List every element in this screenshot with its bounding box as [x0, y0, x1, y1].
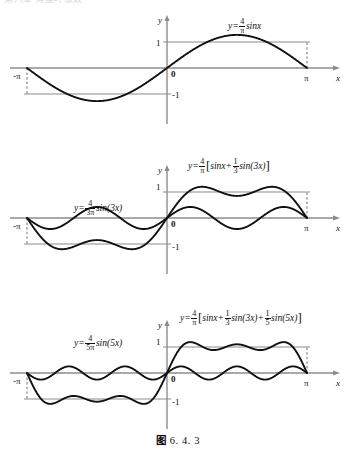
panel-2-ytick-minus1: -1	[172, 243, 180, 252]
panel-3-label-f3-den: 5	[265, 318, 271, 327]
panel-3-label-term3: sin(5x)	[271, 313, 297, 323]
panel-3-xtick-minus-pi: -π	[13, 377, 21, 386]
panel-3-label-coef-num: 4	[191, 310, 197, 318]
panel-2-origin-label: 0	[171, 220, 176, 229]
panel-2-comp-coef-den: 3π	[85, 208, 95, 217]
panel-3-comp-coefficient: 45π	[85, 335, 95, 352]
panel-3-y-axis-label: y	[158, 321, 162, 330]
panel-1-plot	[0, 0, 356, 130]
panel-3: y x 0 1 -1 -π π y=4π[sinx+13sin(3x)+15si…	[0, 305, 356, 435]
panel-3-label-f2-num: 1	[225, 310, 231, 318]
panel-3-label-coef-den: π	[191, 318, 197, 327]
panel-2-label-fraction-2: 13	[233, 158, 239, 175]
panel-2-label-close-bracket: ]	[266, 158, 270, 173]
panel-2-y-axis-label: y	[158, 166, 162, 175]
figure-caption-number: 6. 4. 3	[170, 435, 200, 446]
panel-1-x-axis-label: x	[336, 74, 340, 83]
panel-3-comp-coef-num: 4	[85, 335, 95, 343]
panel-2: y x 0 1 -1 -π π y=4π[sinx+13sin(3x)] y=4…	[0, 150, 356, 280]
panel-1-sum-curve-label: y=4πsinx	[228, 18, 261, 35]
panel-3-comp-coef-den: 5π	[85, 343, 95, 352]
panel-1-label-coef-den: π	[239, 26, 245, 35]
panel-3-ytick-1: 1	[156, 338, 161, 347]
panel-2-comp-body: sin(3x)	[96, 203, 122, 213]
panel-3-label-f3-num: 1	[265, 310, 271, 318]
figure-caption-prefix: 图	[156, 435, 167, 446]
panel-3-origin-label: 0	[171, 375, 176, 384]
panel-1-label-body: sinx	[246, 21, 261, 31]
panel-2-ytick-1: 1	[156, 183, 161, 192]
panel-3-comp-body: sin(5x)	[96, 338, 122, 348]
panel-1-ytick-1: 1	[156, 39, 161, 48]
panel-3-label-fraction-3: 15	[265, 310, 271, 327]
panel-1-label-lhs: y=	[228, 21, 239, 31]
panel-3-component-curve-label: y=45πsin(5x)	[74, 335, 122, 352]
panel-2-plot	[0, 150, 356, 280]
panel-3-label-term1: sinx+	[202, 313, 224, 323]
figure-container: 第六章 傅里叶级数 y x 0 1 -1 -π π y=4πsinx y x 0…	[0, 0, 356, 462]
panel-3-comp-lhs: y=	[74, 338, 85, 348]
panel-2-x-axis-label: x	[336, 224, 340, 233]
panel-2-label-coefficient: 4π	[199, 158, 205, 175]
panel-3-label-open-bracket: [	[198, 310, 202, 325]
panel-2-label-term1: sinx+	[210, 161, 232, 171]
panel-3-label-coefficient: 4π	[191, 310, 197, 327]
panel-1-xtick-minus-pi: -π	[13, 72, 21, 81]
panel-2-label-f2-num: 1	[233, 158, 239, 166]
panel-3-label-lhs: y=	[180, 313, 191, 323]
panel-1: y x 0 1 -1 -π π y=4πsinx	[0, 0, 356, 130]
panel-3-xtick-pi: π	[304, 379, 309, 388]
panel-3-label-close-bracket: ]	[298, 310, 302, 325]
panel-1-xtick-pi: π	[304, 74, 309, 83]
panel-1-y-axis-label: y	[158, 16, 162, 25]
panel-2-component-curve-label: y=43πsin(3x)	[74, 200, 122, 217]
panel-2-comp-lhs: y=	[74, 203, 85, 213]
panel-2-xtick-minus-pi: -π	[13, 222, 21, 231]
panel-2-label-lhs: y=	[188, 161, 199, 171]
panel-2-label-open-bracket: [	[206, 158, 210, 173]
panel-1-label-coefficient: 4π	[239, 18, 245, 35]
panel-1-ytick-minus1: -1	[172, 91, 180, 100]
panel-2-xtick-pi: π	[304, 224, 309, 233]
panel-3-label-f2-den: 3	[225, 318, 231, 327]
panel-1-label-coef-num: 4	[239, 18, 245, 26]
panel-3-label-fraction-2: 13	[225, 310, 231, 327]
panel-3-sum-curve-label: y=4π[sinx+13sin(3x)+15sin(5x)]	[180, 310, 302, 327]
panel-3-ytick-minus1: -1	[172, 398, 180, 407]
panel-3-x-axis-label: x	[336, 379, 340, 388]
panel-2-label-coef-den: π	[199, 166, 205, 175]
panel-2-label-coef-num: 4	[199, 158, 205, 166]
panel-3-label-term2: sin(3x)+	[231, 313, 264, 323]
panel-2-comp-coef-num: 4	[85, 200, 95, 208]
figure-caption: 图 6. 4. 3	[0, 432, 356, 447]
panel-3-plot	[0, 305, 356, 435]
panel-2-sum-curve-label: y=4π[sinx+13sin(3x)]	[188, 158, 270, 175]
panel-2-label-term2: sin(3x)	[239, 161, 265, 171]
panel-1-origin-label: 0	[171, 70, 176, 79]
panel-2-label-f2-den: 3	[233, 166, 239, 175]
panel-2-comp-coefficient: 43π	[85, 200, 95, 217]
